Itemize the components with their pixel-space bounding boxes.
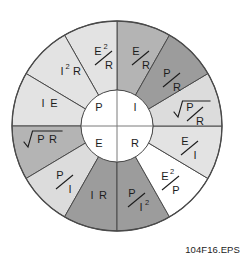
label-i-e-denominator: E xyxy=(50,97,57,109)
label-i2-r-denominator: R xyxy=(73,65,81,77)
label-i2-r-superscript: 2 xyxy=(65,62,69,71)
label-p-over-i-denominator: I xyxy=(68,183,71,195)
label-p-over-i2-numerator: P xyxy=(128,187,135,199)
label-i-r-numerator: I xyxy=(90,189,93,201)
label-e2-over-p-superscript: 2 xyxy=(170,167,174,176)
label-i-e: I E xyxy=(41,97,57,109)
label-e2-over-r-superscript: 2 xyxy=(103,42,107,51)
label-p-over-i2-superscript: 2 xyxy=(145,198,149,207)
label-p-over-i2-denominator: I xyxy=(139,201,142,213)
label-e-over-i-numerator: E xyxy=(181,135,188,147)
label-e2-over-r-numerator: E xyxy=(94,45,101,57)
hub-label-p: P xyxy=(95,101,102,113)
label-e2-over-p-denominator: P xyxy=(172,184,179,196)
label-sqrt-pr-numerator: P xyxy=(37,133,44,145)
figure-caption: 104F16.EPS xyxy=(185,244,240,255)
label-sqrt-p-over-r-denominator: R xyxy=(196,115,204,127)
label-i-r-denominator: R xyxy=(99,189,107,201)
label-p-over-e-denominator: R xyxy=(173,81,181,93)
power-wheel-figure: P I E R E 2 R I 2 R I E E R xyxy=(0,0,248,261)
hub-label-i: I xyxy=(133,101,136,113)
label-e-over-r-denominator: R xyxy=(142,59,150,71)
hub-label-r: R xyxy=(131,137,139,149)
label-e-over-i-denominator: I xyxy=(193,149,196,161)
label-e2-over-r-denominator: R xyxy=(105,59,113,71)
label-i-r: I R xyxy=(90,189,107,201)
label-p-over-i-numerator: P xyxy=(56,169,63,181)
label-i-e-numerator: I xyxy=(41,97,44,109)
power-wheel-diagram: P I E R E 2 R I 2 R I E E R xyxy=(0,0,248,261)
label-e2-over-p-numerator: E xyxy=(161,170,168,182)
label-e-over-r-numerator: E xyxy=(132,45,139,57)
label-i2-r-numerator: I xyxy=(60,65,63,77)
label-sqrt-pr-denominator: R xyxy=(49,133,57,145)
hub-label-e: E xyxy=(95,137,102,149)
label-sqrt-p-over-r-numerator: P xyxy=(186,101,193,113)
label-p-over-e-numerator: P xyxy=(163,67,170,79)
